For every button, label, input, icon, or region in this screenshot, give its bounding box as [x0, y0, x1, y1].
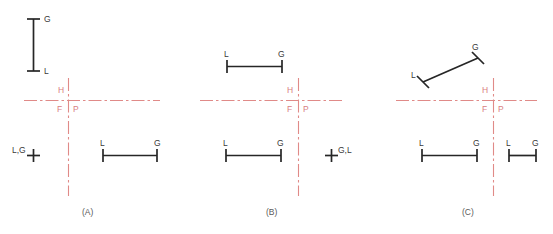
panel-c-diagonal-bar-label-g: G: [472, 42, 479, 52]
panel-c-label-h: H: [482, 85, 488, 95]
panel-c: H F P L G L G L G (C): [396, 42, 539, 217]
panel-a-label-p: P: [73, 104, 79, 114]
panel-b-lower-bar-label-l: L: [223, 138, 228, 148]
panel-a-horizontal-bar-label-g: G: [154, 138, 161, 148]
panel-a-label-h: H: [58, 85, 64, 95]
diagram-svg: H F P G L L,G L G (A): [0, 0, 553, 234]
panel-c-lower-left-bar-label-g: G: [473, 138, 480, 148]
panel-b-label-p: P: [303, 104, 309, 114]
panel-b-label-h: H: [287, 85, 293, 95]
panel-c-diagonal-bar: [423, 58, 478, 82]
panel-b-label-f: F: [287, 104, 292, 114]
figure-canvas: H F P G L L,G L G (A): [0, 0, 553, 234]
panel-c-caption: (C): [462, 207, 474, 217]
panel-a-caption: (A): [82, 207, 94, 217]
panel-c-lower-left-bar-label-l: L: [419, 138, 424, 148]
panel-a-vertical-bar-label-l: L: [44, 66, 49, 76]
panel-c-label-p: P: [498, 104, 504, 114]
panel-a-label-f: F: [57, 104, 62, 114]
panel-c-diagonal-bar-label-l: L: [411, 70, 416, 80]
panel-b-upper-bar-label-g: G: [278, 49, 285, 59]
panel-a: H F P G L L,G L G (A): [12, 14, 161, 217]
panel-a-vertical-bar-label-g: G: [44, 14, 51, 24]
panel-b: H F P L G L G G,L (B): [200, 49, 352, 217]
panel-b-upper-bar-label-l: L: [224, 49, 229, 59]
panel-a-horizontal-bar-label-l: L: [100, 138, 105, 148]
panel-c-label-f: F: [482, 104, 487, 114]
panel-c-diagonal-bar-tick-g: [472, 52, 484, 64]
panel-a-point-marker-label: L,G: [12, 145, 26, 155]
panel-c-lower-right-bar-label-l: L: [506, 138, 511, 148]
panel-b-lower-bar-label-g: G: [277, 138, 284, 148]
panel-c-diagonal-bar-tick-l: [417, 76, 429, 88]
panel-b-point-marker-label: G,L: [338, 145, 352, 155]
panel-c-lower-right-bar-label-g: G: [532, 138, 539, 148]
panel-b-caption: (B): [266, 207, 278, 217]
